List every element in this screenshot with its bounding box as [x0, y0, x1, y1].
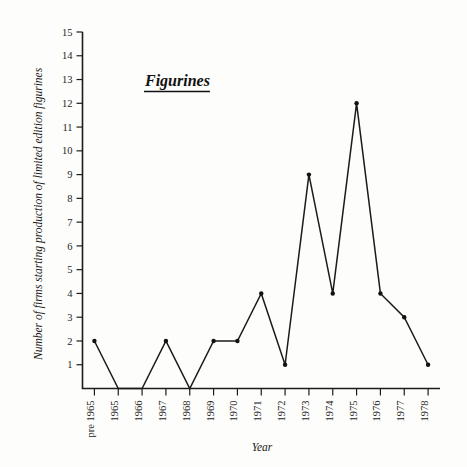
x-tick-label: 1965	[109, 401, 120, 422]
x-tick-label: 1971	[252, 401, 263, 422]
x-tick-label: pre 1965	[85, 401, 96, 438]
chart-axes	[83, 32, 441, 389]
x-tick-label: 1968	[181, 401, 192, 422]
data-point-marker	[307, 172, 311, 176]
y-tick-label: 6	[67, 241, 72, 252]
y-tick-label: 5	[67, 264, 72, 275]
x-tick-label: 1972	[276, 401, 287, 422]
x-tick-label: 1978	[419, 401, 430, 422]
y-tick-label: 11	[62, 122, 72, 133]
y-tick-label: 7	[67, 217, 72, 228]
y-tick-label: 13	[62, 74, 73, 85]
data-point-marker	[92, 339, 96, 343]
x-axis-title: Year	[252, 441, 273, 453]
data-series-figurines	[92, 101, 430, 388]
x-tick-label: 1970	[228, 401, 239, 422]
y-tick-label: 15	[62, 27, 73, 38]
figurines-line-chart: 123456789101112131415 pre 19651965196619…	[0, 0, 467, 467]
y-tick-label: 12	[62, 98, 73, 109]
y-axis-ticks	[77, 32, 83, 365]
data-point-marker	[164, 339, 168, 343]
y-tick-label: 9	[67, 169, 72, 180]
y-axis-tick-labels: 123456789101112131415	[62, 27, 73, 371]
x-tick-label: 1976	[371, 401, 382, 422]
data-point-marker	[426, 363, 430, 367]
data-point-marker	[211, 339, 215, 343]
x-axis-ticks	[94, 389, 428, 396]
data-point-marker	[235, 339, 239, 343]
chart-title: Figurines	[144, 72, 210, 90]
y-tick-label: 2	[67, 336, 72, 347]
y-tick-label: 8	[67, 193, 72, 204]
x-tick-label: 1974	[324, 400, 335, 422]
x-tick-label: 1967	[157, 401, 168, 422]
x-tick-label: 1977	[395, 401, 406, 422]
data-point-marker	[402, 315, 406, 319]
x-tick-label: 1973	[300, 401, 311, 422]
series-line-path	[94, 103, 428, 388]
data-point-marker	[283, 363, 287, 367]
data-point-marker	[259, 291, 263, 295]
x-tick-label: 1975	[348, 401, 359, 422]
y-axis-title: Number of firms starting production of l…	[32, 67, 45, 361]
y-tick-label: 1	[67, 359, 72, 370]
x-tick-label: 1966	[133, 401, 144, 422]
data-point-marker	[354, 101, 358, 105]
y-tick-label: 14	[62, 50, 73, 61]
y-tick-label: 3	[67, 312, 72, 323]
x-tick-label: 1969	[205, 401, 216, 422]
y-tick-label: 10	[62, 145, 73, 156]
data-point-marker	[378, 291, 382, 295]
data-point-marker	[331, 291, 335, 295]
x-axis-tick-labels: pre 196519651966196719681969197019711972…	[85, 400, 430, 438]
series-markers	[92, 101, 430, 367]
chart-page: 123456789101112131415 pre 19651965196619…	[0, 0, 467, 467]
y-tick-label: 4	[67, 288, 73, 299]
